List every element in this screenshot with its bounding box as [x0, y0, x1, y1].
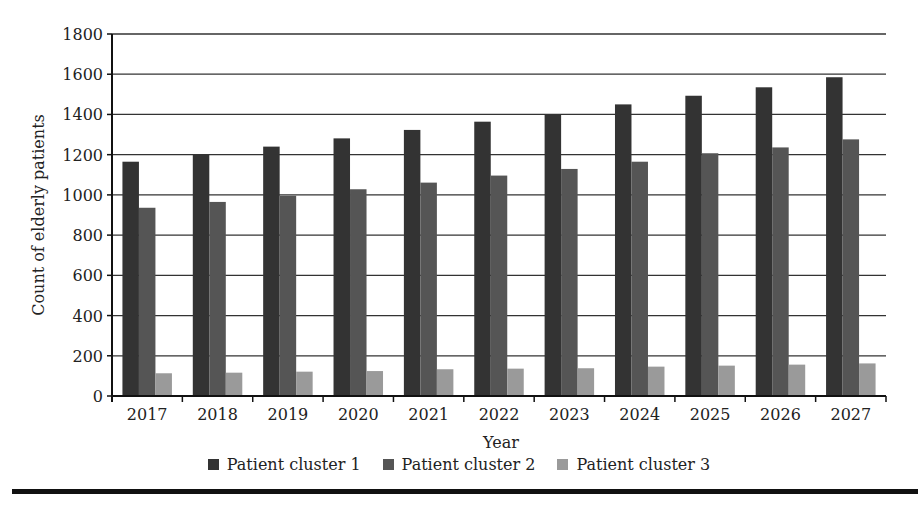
legend-swatch-icon	[208, 459, 219, 470]
bar	[756, 87, 773, 396]
legend: Patient cluster 1 Patient cluster 2 Pati…	[0, 455, 918, 474]
x-tick-label: 2025	[690, 405, 731, 424]
bar	[122, 162, 139, 396]
legend-label: Patient cluster 3	[576, 455, 710, 474]
bar	[334, 138, 351, 396]
y-tick-label: 600	[72, 266, 103, 285]
bar	[226, 373, 243, 396]
bar	[718, 366, 735, 396]
bar	[561, 169, 578, 396]
y-tick-label: 400	[72, 307, 103, 326]
y-tick-label: 1800	[62, 25, 103, 44]
bar	[209, 202, 226, 396]
x-tick-label: 2026	[760, 405, 801, 424]
bar	[772, 147, 789, 396]
bar	[367, 371, 384, 396]
y-tick-label: 1400	[62, 105, 103, 124]
bar	[296, 372, 313, 396]
x-tick-label: 2019	[268, 405, 309, 424]
legend-item-cluster-1: Patient cluster 1	[208, 455, 361, 474]
legend-label: Patient cluster 2	[402, 455, 536, 474]
bar	[631, 162, 648, 396]
legend-swatch-icon	[557, 459, 568, 470]
x-axis-title: Year	[482, 433, 519, 452]
legend-item-cluster-2: Patient cluster 2	[383, 455, 536, 474]
bar	[280, 196, 297, 396]
bar	[507, 369, 524, 396]
y-axis-title: Count of elderly patients	[29, 114, 48, 316]
y-tick-label: 1600	[62, 65, 103, 84]
x-tick-label: 2021	[408, 405, 449, 424]
bar	[420, 183, 437, 396]
y-tick-label: 0	[93, 387, 103, 406]
y-tick-label: 800	[72, 226, 103, 245]
x-tick-label: 2024	[619, 405, 660, 424]
y-tick-label: 1000	[62, 186, 103, 205]
bar	[139, 208, 156, 396]
x-tick-label: 2020	[338, 405, 379, 424]
x-tick-label: 2018	[197, 405, 238, 424]
bar	[437, 369, 454, 396]
bar-chart: 0200400600800100012001400160018002017201…	[0, 0, 918, 510]
bar	[491, 176, 508, 396]
bar	[843, 139, 860, 396]
bottom-rule	[12, 489, 918, 494]
legend-label: Patient cluster 1	[227, 455, 361, 474]
bar	[685, 96, 702, 396]
bar	[263, 147, 280, 396]
bar	[702, 153, 719, 396]
legend-swatch-icon	[383, 459, 394, 470]
bar	[789, 365, 806, 396]
bar	[474, 122, 491, 396]
legend-item-cluster-3: Patient cluster 3	[557, 455, 710, 474]
x-tick-label: 2027	[830, 405, 871, 424]
bar	[404, 130, 421, 396]
bar	[615, 104, 632, 396]
x-tick-label: 2017	[127, 405, 168, 424]
y-tick-label: 200	[72, 347, 103, 366]
bar	[826, 77, 843, 396]
bar	[648, 367, 665, 396]
bar	[578, 368, 595, 396]
bar	[350, 189, 367, 396]
bars	[122, 77, 875, 396]
bar	[859, 363, 876, 396]
x-tick-label: 2023	[549, 405, 590, 424]
x-tick-label: 2022	[479, 405, 520, 424]
bar	[545, 114, 562, 396]
bar	[155, 373, 172, 396]
y-tick-label: 1200	[62, 146, 103, 165]
bar	[193, 154, 210, 396]
